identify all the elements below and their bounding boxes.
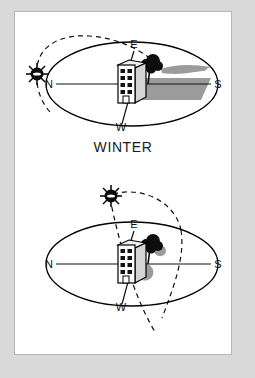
sun-icon bbox=[100, 185, 122, 207]
label-north-summer: N bbox=[45, 258, 53, 270]
sun-icon bbox=[26, 63, 48, 85]
sun-path-summer-descending bbox=[162, 230, 182, 318]
caption-winter: WINTER bbox=[15, 139, 231, 155]
label-east-winter: E bbox=[130, 38, 137, 50]
tree-shadow-winter-tip bbox=[175, 66, 207, 72]
diagram-winter: N S E W bbox=[15, 12, 231, 172]
building-icon bbox=[118, 240, 146, 283]
label-south-summer: S bbox=[214, 258, 221, 270]
label-west-winter: W bbox=[116, 121, 127, 133]
diagram-summer: N S E W bbox=[15, 172, 231, 354]
sun-path-summer bbox=[113, 192, 181, 230]
figure-panel: N S E W bbox=[14, 11, 232, 355]
building-icon bbox=[118, 60, 146, 103]
label-west-summer: W bbox=[116, 301, 127, 313]
label-north-winter: N bbox=[45, 78, 53, 90]
label-south-winter: S bbox=[214, 78, 221, 90]
label-east-summer: E bbox=[130, 218, 137, 230]
